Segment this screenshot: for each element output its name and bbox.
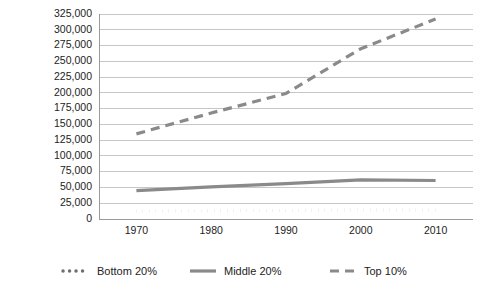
line-chart: 025,00050,00075,000100,000125,000150,000… [0, 0, 489, 295]
y-tick-label: 275,000 [54, 38, 92, 50]
y-tick-label: 50,000 [60, 180, 92, 192]
y-tick-label: 225,000 [54, 70, 92, 82]
y-tick-label: 200,000 [54, 86, 92, 98]
y-tick-label: 250,000 [54, 54, 92, 66]
legend-label: Bottom 20% [97, 265, 157, 277]
chart-canvas: 025,00050,00075,000100,000125,000150,000… [0, 0, 489, 295]
y-tick-label: 150,000 [54, 117, 92, 129]
y-tick-label: 300,000 [54, 23, 92, 35]
y-tick-label: 100,000 [54, 149, 92, 161]
y-tick-label: 125,000 [54, 133, 92, 145]
y-tick-label: 25,000 [60, 196, 92, 208]
y-tick-label: 0 [86, 212, 92, 224]
legend-label: Middle 20% [224, 265, 282, 277]
x-tick-label: 1970 [125, 224, 149, 236]
legend-label: Top 10% [364, 265, 407, 277]
y-tick-label: 175,000 [54, 101, 92, 113]
y-tick-label: 75,000 [60, 164, 92, 176]
y-tick-label: 325,000 [54, 7, 92, 19]
x-tick-label: 2000 [349, 224, 373, 236]
x-tick-label: 1990 [274, 224, 298, 236]
x-tick-label: 2010 [424, 224, 448, 236]
x-tick-label: 1980 [200, 224, 224, 236]
